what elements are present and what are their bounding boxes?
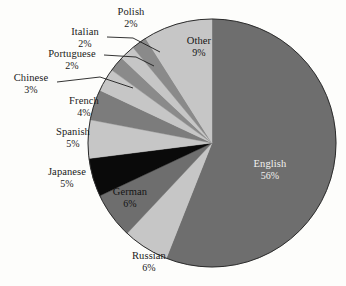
pie-label-chinese-value: 3% — [6, 84, 56, 95]
pie-label-polish-value: 2% — [108, 18, 154, 29]
pie-label-polish: Polish 2% — [108, 6, 154, 29]
pie-label-russian-value: 6% — [118, 262, 180, 273]
pie-label-portuguese: Portuguese 2% — [38, 48, 106, 71]
pie-label-japanese-name: Japanese — [36, 166, 98, 178]
pie-label-english: English 56% — [238, 158, 302, 181]
pie-label-german: German 6% — [101, 186, 159, 209]
pie-label-german-value: 6% — [101, 198, 159, 209]
pie-label-other-value: 9% — [175, 47, 223, 58]
pie-label-spanish: Spanish 5% — [44, 126, 102, 149]
pie-label-italian-name: Italian — [62, 26, 108, 38]
pie-label-italian-value: 2% — [62, 38, 108, 49]
pie-label-spanish-name: Spanish — [44, 126, 102, 138]
pie-label-chinese-name: Chinese — [6, 72, 56, 84]
pie-label-portuguese-value: 2% — [38, 60, 106, 71]
pie-label-other: Other 9% — [175, 35, 223, 58]
pie-label-french-name: French — [58, 95, 110, 107]
pie-label-english-value: 56% — [238, 170, 302, 181]
pie-label-italian: Italian 2% — [62, 26, 108, 49]
pie-label-portuguese-name: Portuguese — [38, 48, 106, 60]
pie-label-polish-name: Polish — [108, 6, 154, 18]
pie-chart-figure: English 56% Other 9% Russian 6% German 6… — [0, 0, 346, 286]
pie-label-other-name: Other — [175, 35, 223, 47]
pie-label-french: French 4% — [58, 95, 110, 118]
pie-label-japanese-value: 5% — [36, 178, 98, 189]
pie-label-spanish-value: 5% — [44, 138, 102, 149]
pie-label-japanese: Japanese 5% — [36, 166, 98, 189]
pie-label-english-name: English — [238, 158, 302, 170]
pie-label-russian-name: Russian — [118, 250, 180, 262]
pie-label-chinese: Chinese 3% — [6, 72, 56, 95]
pie-label-french-value: 4% — [58, 107, 110, 118]
pie-label-german-name: German — [101, 186, 159, 198]
pie-label-russian: Russian 6% — [118, 250, 180, 273]
